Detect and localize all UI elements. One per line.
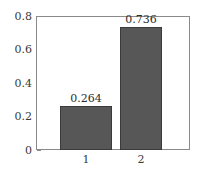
bar-value-label-2: 0.736 xyxy=(116,14,166,25)
bar-chart-figure: 0.8 0.6 0.4 0.2 0 0.264 0.736 1 2 xyxy=(0,0,216,176)
y-axis-tick-mark xyxy=(37,150,41,151)
y-axis-tick-label-0.8: 0.8 xyxy=(2,11,32,22)
bar-value-label-1: 0.264 xyxy=(61,93,111,104)
x-axis-tick-label-2: 2 xyxy=(126,154,156,165)
y-axis-tick-label-0.4: 0.4 xyxy=(2,78,32,89)
bar-category-1 xyxy=(60,106,112,150)
y-axis-tick-label-0.6: 0.6 xyxy=(2,44,32,55)
y-axis-tick-label-0.2: 0.2 xyxy=(2,111,32,122)
bar-category-2 xyxy=(120,27,162,150)
y-axis-tick-label-0: 0 xyxy=(2,145,32,156)
x-axis-tick-label-1: 1 xyxy=(71,154,101,165)
